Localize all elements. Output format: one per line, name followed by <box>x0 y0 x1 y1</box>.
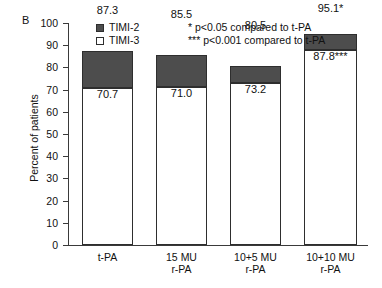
y-axis-line <box>68 23 69 245</box>
x-tick-label-t-pa: t-PA <box>82 251 133 263</box>
bar-group[interactable]: 85.5 71.0 <box>156 23 207 245</box>
bar-total-label: 95.1* <box>304 3 357 14</box>
y-tick-label: 60 <box>18 107 58 118</box>
figure-panel-b: B Percent of patients 0 10 20 30 40 50 6… <box>0 0 382 288</box>
y-tick-label: 90 <box>18 40 58 51</box>
bar-segment-timi2 <box>230 66 281 82</box>
bar-inner-label: 73.2 <box>230 84 281 95</box>
bar-inner-label: 71.0 <box>156 88 207 99</box>
significance-note-line1: * p<0.05 compared to t-PA <box>188 21 325 34</box>
bar-group[interactable]: 80.5 73.2 <box>230 23 281 245</box>
x-axis-line <box>68 245 368 246</box>
y-tick <box>63 67 68 68</box>
x-tick-label-10-10-mu-r-pa: 10+10 MU r-PA <box>301 251 360 275</box>
x-tick-label-15-mu-r-pa: 15 MU r-PA <box>156 251 207 275</box>
legend-item-label: TIMI-2 <box>109 21 139 34</box>
y-tick <box>63 45 68 46</box>
y-tick-label: 50 <box>18 129 58 140</box>
y-tick-label: 20 <box>18 196 58 207</box>
x-tick-label-line1: 10+5 MU <box>228 251 283 263</box>
bar-stack <box>156 55 207 245</box>
bar-stack <box>82 51 133 245</box>
y-tick <box>63 201 68 202</box>
bar-group[interactable]: 95.1* 87.8*** <box>304 23 357 245</box>
y-tick <box>63 23 68 24</box>
significance-note-line2: *** p<0.001 compared to t-PA <box>188 34 325 47</box>
x-tick-label-10-5-mu-r-pa: 10+5 MU r-PA <box>228 251 283 275</box>
bar-total-label: 87.3 <box>82 5 133 16</box>
x-tick-label-line1: 15 MU <box>156 251 207 263</box>
x-tick-label-line2: r-PA <box>301 263 360 275</box>
bar-inner-label: 70.7 <box>82 89 133 100</box>
y-tick <box>63 178 68 179</box>
y-tick-label: 100 <box>18 18 58 29</box>
bar-total-label: 85.5 <box>156 9 207 20</box>
bar-segment-timi3 <box>156 87 207 245</box>
significance-notes: * p<0.05 compared to t-PA *** p<0.001 co… <box>188 21 325 47</box>
bar-inner-label: 87.8*** <box>304 51 357 62</box>
x-tick-label-line1: 10+10 MU <box>301 251 360 263</box>
y-tick-label: 40 <box>18 151 58 162</box>
x-tick-label-line1: t-PA <box>82 251 133 263</box>
y-tick <box>63 223 68 224</box>
y-tick <box>63 90 68 91</box>
bar-segment-timi2 <box>82 51 133 88</box>
bar-group[interactable]: 87.3 70.7 <box>82 23 133 245</box>
bar-stack <box>304 34 357 245</box>
y-tick <box>63 245 68 246</box>
legend-item-timi-2: TIMI-2 <box>96 21 139 34</box>
y-tick-label: 80 <box>18 62 58 73</box>
y-tick-label: 0 <box>18 240 58 251</box>
plot-area: 0 10 20 30 40 50 60 70 80 90 100 87.3 70… <box>68 23 368 245</box>
y-tick-label: 30 <box>18 173 58 184</box>
legend-item-timi-3: TIMI-3 <box>96 34 139 47</box>
y-tick <box>63 112 68 113</box>
legend: TIMI-2 TIMI-3 <box>96 21 139 47</box>
y-tick-label: 10 <box>18 218 58 229</box>
x-tick-label-line2: r-PA <box>156 263 207 275</box>
bar-segment-timi3 <box>304 50 357 245</box>
legend-item-label: TIMI-3 <box>109 34 139 47</box>
bar-segment-timi3 <box>82 88 133 245</box>
open-square-icon <box>96 37 104 45</box>
bar-segment-timi2 <box>156 55 207 87</box>
y-tick <box>63 156 68 157</box>
bar-segment-timi3 <box>230 83 281 246</box>
y-tick <box>63 134 68 135</box>
filled-square-icon <box>96 24 104 32</box>
x-tick-label-line2: r-PA <box>228 263 283 275</box>
y-tick-label: 70 <box>18 85 58 96</box>
